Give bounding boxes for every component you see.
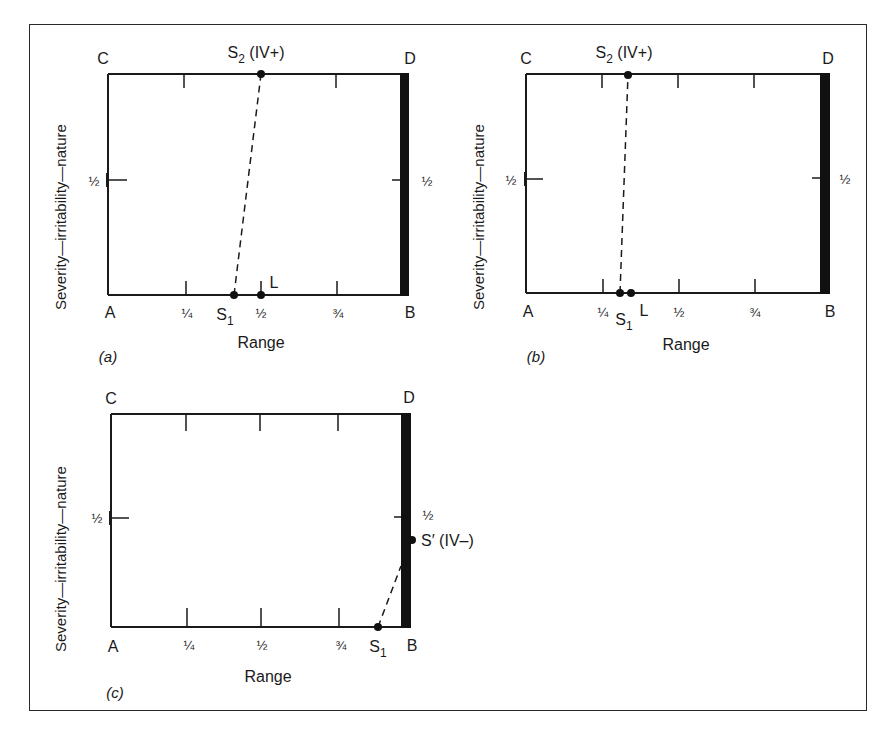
half-label-left: ½ <box>506 173 517 188</box>
half-label-left: ½ <box>89 174 100 189</box>
x-axis-label: Range <box>244 668 291 685</box>
x-tick-half: ½ <box>256 306 267 321</box>
corner-b: B <box>407 637 418 654</box>
trajectory-line <box>234 74 261 295</box>
point-s-prime <box>408 536 416 544</box>
corner-a: A <box>523 303 534 320</box>
corner-a: A <box>108 638 119 655</box>
corner-d: D <box>822 50 834 67</box>
corner-c: C <box>520 50 532 67</box>
trajectory-line <box>620 75 628 293</box>
figure-canvas: Severity—irritability—nature C D A B ½ ½… <box>0 0 895 737</box>
half-label-right: ½ <box>423 508 434 523</box>
point-s2 <box>624 71 632 79</box>
right-bar <box>400 73 409 296</box>
panel-b: Severity—irritability—nature C D A B ½ ½… <box>470 44 851 365</box>
x-tick-quarter: ¼ <box>598 305 609 320</box>
right-bar <box>401 413 411 628</box>
half-mark <box>106 173 109 187</box>
x-tick-quarter: ¼ <box>184 638 195 653</box>
x-tick-half: ½ <box>257 638 268 653</box>
y-axis-label: Severity—irritability—nature <box>52 466 69 652</box>
panel-caption: (c) <box>106 684 124 701</box>
label-l: L <box>270 274 279 291</box>
half-label-right: ½ <box>422 174 433 189</box>
x-tick-half: ½ <box>674 305 685 320</box>
x-axis-label: Range <box>237 334 284 351</box>
corner-d: D <box>404 50 416 67</box>
x-axis-label: Range <box>662 336 709 353</box>
point-s1 <box>616 289 624 297</box>
corner-b: B <box>405 304 416 321</box>
trajectory-line <box>378 566 401 627</box>
panel-caption: (b) <box>527 348 545 365</box>
half-label-right: ½ <box>840 172 851 187</box>
corner-b: B <box>825 303 836 320</box>
panel-c: Severity—irritability—nature C D A B ½ ½… <box>52 389 474 701</box>
corner-c: C <box>105 390 117 407</box>
corner-d: D <box>403 389 415 406</box>
label-s1: S1 <box>615 311 633 333</box>
point-l <box>257 291 265 299</box>
label-s1: S1 <box>369 638 387 660</box>
y-axis-label: Severity—irritability—nature <box>52 124 69 310</box>
point-s2 <box>257 70 265 78</box>
x-tick-three-quarter: ¾ <box>336 638 347 653</box>
label-s1: S1 <box>216 306 234 328</box>
point-s1 <box>230 291 238 299</box>
y-axis-label: Severity—irritability—nature <box>470 124 487 310</box>
x-tick-quarter: ¼ <box>182 306 193 321</box>
corner-c: C <box>97 50 109 67</box>
label-l: L <box>640 302 649 319</box>
x-tick-three-quarter: ¾ <box>333 306 344 321</box>
x-tick-three-quarter: ¾ <box>750 305 761 320</box>
point-l <box>627 289 635 297</box>
half-mark <box>109 511 112 525</box>
right-bar <box>820 73 830 294</box>
label-s2: S2 (IV+) <box>596 44 653 66</box>
corner-a: A <box>105 304 116 321</box>
point-s1 <box>374 623 382 631</box>
panel-a: Severity—irritability—nature C D A B ½ ½… <box>52 44 433 365</box>
half-mark <box>524 172 527 186</box>
half-label-left: ½ <box>92 511 103 526</box>
label-s-prime: S′ (IV–) <box>421 532 474 549</box>
label-s2: S2 (IV+) <box>228 44 285 66</box>
panel-caption: (a) <box>99 348 117 365</box>
